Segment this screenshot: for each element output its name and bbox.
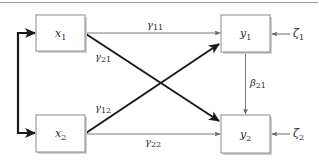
node-x2: x2 bbox=[36, 115, 87, 154]
covariance-x1-x2 bbox=[18, 33, 35, 133]
path-gamma21-label: γ21 bbox=[95, 51, 111, 64]
path-gamma11-label: γ11 bbox=[147, 19, 163, 32]
path-gamma22-label: γ22 bbox=[145, 136, 161, 149]
path-diagram: x1 x2 y1 y2 ζ1 ζ2 γ11 γ21 γ12 γ22 β21 bbox=[0, 0, 319, 168]
node-y1: y1 bbox=[221, 15, 272, 54]
path-gamma12-label: γ12 bbox=[95, 102, 111, 115]
error-zeta2-label: ζ2 bbox=[293, 127, 304, 142]
error-zeta1-label: ζ1 bbox=[293, 27, 304, 42]
node-y2: y2 bbox=[221, 115, 272, 155]
path-beta21-label: β21 bbox=[249, 77, 266, 90]
node-x1: x1 bbox=[36, 15, 87, 53]
